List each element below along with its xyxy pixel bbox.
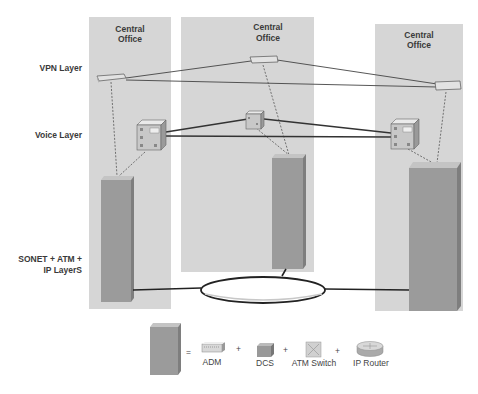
office-2-label-line1: Central [253,22,282,32]
office-2-label-line2: Office [256,33,280,43]
legend-dcs-label: DCS [256,358,274,368]
legend-adm-label: ADM [203,357,222,367]
legend-equals: = [186,347,191,357]
transport-layer-label-line1: SONET + ATM + [18,254,82,264]
dcs-icon [257,343,274,357]
transport-layer-label-line2: IP LayerS [43,265,82,275]
legend-atm-switch-label: ATM Switch [292,358,337,368]
transport-tower-3 [409,162,461,311]
vpn-layer-label: VPN Layer [39,63,82,73]
legend-plus-1: + [236,344,241,354]
office-3-label-line2: Office [407,40,431,50]
transport-tower-1 [101,176,134,302]
sonet-ring [133,269,409,303]
legend-plus-3: + [335,346,340,356]
office-1-label-line1: Central [115,24,144,34]
office-1-label-line2: Office [118,34,142,44]
network-diagram: Central Office Central Office Central Of… [0,0,478,394]
voice-layer-label: Voice Layer [35,130,83,140]
voice-switch-3 [391,119,419,149]
voice-switch-1 [137,120,166,150]
atm-switch-icon [306,342,321,357]
transport-tower-2 [272,154,306,269]
vpn-device-2 [250,56,278,63]
legend-ip-router-label: IP Router [353,358,389,368]
voice-switch-2 [246,111,264,129]
legend-plus-2: + [283,345,288,355]
office-3-label-line1: Central [404,30,433,40]
vpn-device-3 [435,81,461,90]
legend-tower-icon [150,323,181,375]
adm-icon [202,342,225,352]
ip-router-icon [357,342,383,357]
legend: = ADM + DCS + ATM Switch + IP Router [150,323,389,375]
